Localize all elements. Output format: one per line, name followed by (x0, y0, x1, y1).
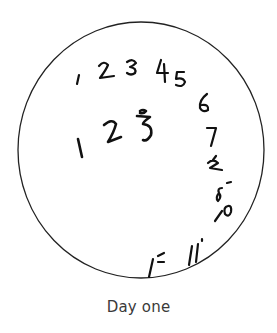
clock-drawing (0, 0, 277, 290)
clock-face-circle (18, 22, 264, 278)
inner-numbers (78, 110, 151, 157)
figure-caption: Day one (0, 298, 277, 316)
outer-numbers (77, 60, 231, 277)
